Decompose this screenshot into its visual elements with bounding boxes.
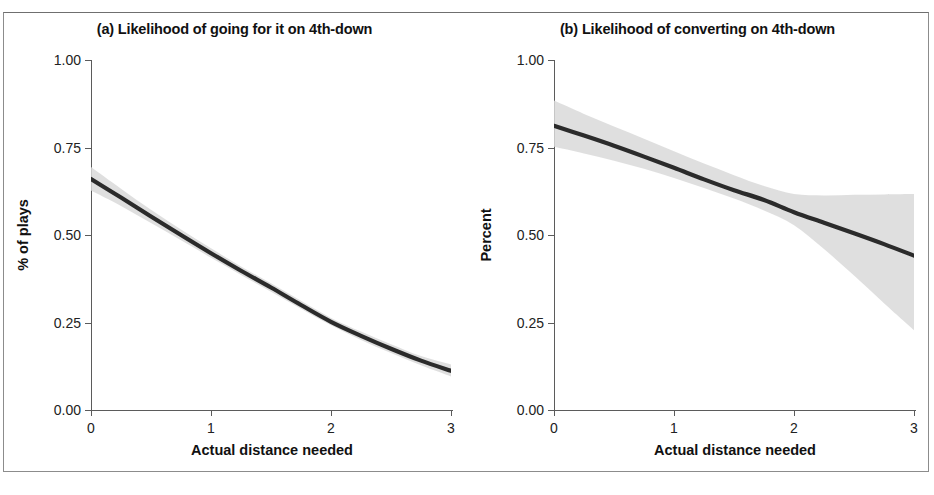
panel-a-x-tick-mark (331, 410, 332, 416)
panel-a-y-tick-label: 0.75 (54, 140, 81, 156)
panel-b-y-tick-label: 0.25 (517, 315, 544, 331)
panel-b-x-tick-label: 1 (670, 420, 678, 436)
panel-b-x-tick-mark (914, 410, 915, 416)
panel-b: (b) Likelihood of converting on 4th-down… (466, 12, 929, 472)
panel-a-x-tick-label: 3 (447, 420, 455, 436)
panel-a-plot-area (91, 60, 451, 410)
panel-a-x-axis-label: Actual distance needed (91, 442, 453, 458)
panel-b-x-axis-label: Actual distance needed (554, 442, 916, 458)
panel-a-x-tick-mark (211, 410, 212, 416)
panel-a-x-tick-mark (91, 410, 92, 416)
panel-b-y-axis-label-text: Percent (478, 208, 494, 261)
panel-b-x-tick-mark (674, 410, 675, 416)
panel-b-x-tick-label: 0 (550, 420, 558, 436)
panel-b-fit-line (554, 126, 914, 256)
panel-a-x-axis-line (91, 410, 453, 411)
panel-b-x-axis-line (554, 410, 916, 411)
panel-a-y-tick-label: 0.50 (54, 227, 81, 243)
panel-b-confidence-band (554, 101, 914, 331)
panel-a-x-tick-label: 0 (87, 420, 95, 436)
panel-a-y-tick-label: 0.25 (54, 315, 81, 331)
panel-b-y-tick-label: 0.75 (517, 140, 544, 156)
panel-b-y-tick-label: 0.00 (517, 402, 544, 418)
panel-a: (a) Likelihood of going for it on 4th-do… (3, 12, 466, 472)
panel-b-y-tick-label: 0.50 (517, 227, 544, 243)
panel-a-x-tick-label: 1 (207, 420, 215, 436)
panel-b-x-tick-label: 3 (910, 420, 918, 436)
panel-a-y-tick-label: 0.00 (54, 402, 81, 418)
panel-a-confidence-band (91, 167, 451, 376)
panel-a-x-tick-label: 2 (327, 420, 335, 436)
panel-a-y-axis-label-text: % of plays (15, 199, 31, 271)
panel-b-x-tick-mark (794, 410, 795, 416)
panel-b-y-tick-label: 1.00 (517, 52, 544, 68)
panel-b-y-axis-label: Percent (476, 60, 496, 410)
panel-b-plot-area (554, 60, 914, 410)
panel-a-title: (a) Likelihood of going for it on 4th-do… (3, 21, 466, 37)
panel-b-x-tick-mark (554, 410, 555, 416)
panel-b-x-tick-label: 2 (790, 420, 798, 436)
panel-b-title: (b) Likelihood of converting on 4th-down (466, 21, 929, 37)
panel-a-y-axis-label: % of plays (13, 60, 33, 410)
panel-a-y-tick-label: 1.00 (54, 52, 81, 68)
panel-a-x-tick-mark (451, 410, 452, 416)
figure-canvas: (a) Likelihood of going for it on 4th-do… (0, 0, 934, 495)
